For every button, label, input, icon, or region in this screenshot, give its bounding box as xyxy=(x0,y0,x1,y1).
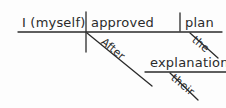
verb-label: approved xyxy=(91,16,154,29)
sentence-diagram: I (myself) approved plan After explanati… xyxy=(0,0,226,108)
subject-label: I (myself) xyxy=(22,16,85,29)
direct-object-label: plan xyxy=(185,16,214,29)
prepositional-object-label: explanation xyxy=(150,56,226,69)
